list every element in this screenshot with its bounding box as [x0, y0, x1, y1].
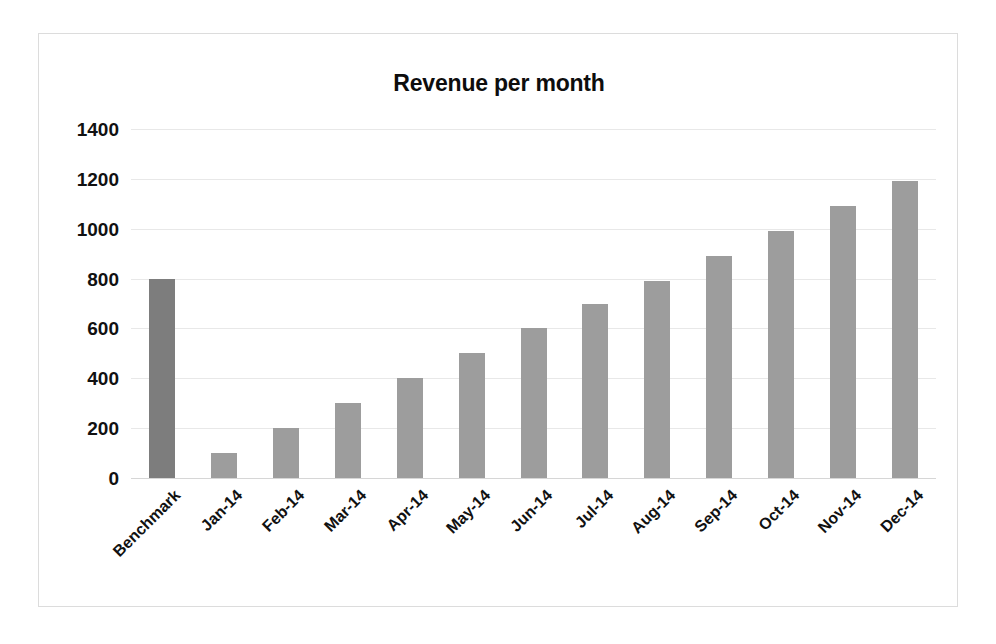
plot-area: 0200400600800100012001400 BenchmarkJan-1…: [131, 129, 936, 478]
x-axis-tick-label: Oct-14: [756, 487, 803, 534]
x-axis-tick-label: Jan-14: [198, 487, 245, 534]
x-axis-tick-label: Dec-14: [878, 487, 926, 535]
y-axis-tick-label: 400: [87, 369, 119, 388]
y-axis-tick-label: 600: [87, 319, 119, 338]
x-axis-tick-label: Nov-14: [815, 487, 864, 536]
y-axis-tick-label: 1000: [77, 219, 119, 238]
chart-title: Revenue per month: [39, 70, 959, 97]
y-axis-tick-label: 1400: [77, 120, 119, 139]
y-axis-tick-label: 200: [87, 419, 119, 438]
x-axis-tick-label: Jun-14: [507, 487, 555, 535]
x-axis-tick-label: Aug-14: [629, 487, 679, 537]
x-axis-tick-label: Apr-14: [384, 487, 431, 534]
gridline-0: [131, 478, 936, 479]
x-axis-tick-label: Benchmark: [110, 487, 183, 560]
x-axis-tick-label: Jul-14: [573, 487, 617, 531]
y-axis-tick-label: 1200: [77, 169, 119, 188]
chart-frame: Revenue per month 0200400600800100012001…: [38, 33, 958, 607]
y-axis-tick-label: 800: [87, 269, 119, 288]
x-axis-tick-label: Sep-14: [692, 487, 740, 535]
y-axis-tick-label: 0: [108, 469, 119, 488]
x-axis-tick-label: May-14: [443, 487, 493, 537]
x-axis-tick-label: Feb-14: [259, 487, 307, 535]
x-axis-tick-label: Mar-14: [321, 487, 369, 535]
x-axis-labels-group: BenchmarkJan-14Feb-14Mar-14Apr-14May-14J…: [131, 129, 936, 478]
